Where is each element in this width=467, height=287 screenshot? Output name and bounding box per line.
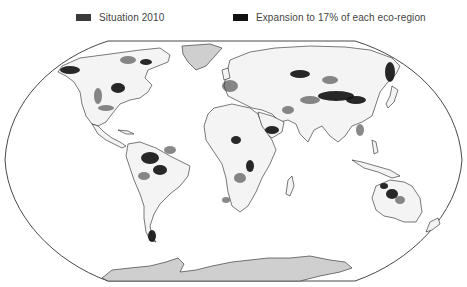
expansion-area [141,152,159,164]
expansion-area [148,230,156,242]
protected-area-2010 [234,173,246,183]
protected-area-2010 [98,105,114,111]
protected-area-2010 [222,197,230,203]
expansion-area [246,160,254,172]
world-map [0,0,467,287]
expansion-area [385,62,395,82]
expansion-area [60,66,80,74]
expansion-area [111,83,125,93]
protected-area-2010 [322,76,338,84]
protected-area-2010 [138,172,150,180]
protected-area-2010 [94,88,102,104]
protected-area-2010 [356,124,364,136]
protected-area-2010 [282,106,294,114]
expansion-area [265,126,279,134]
protected-area-2010 [164,146,176,154]
protected-area-2010 [120,56,136,64]
protected-area-2010 [222,80,238,92]
protected-area-2010 [300,96,320,104]
expansion-area [153,165,167,175]
expansion-area [140,59,152,65]
expansion-area [290,70,310,78]
expansion-area [346,96,366,104]
expansion-area [380,183,388,189]
protected-area-2010 [395,196,405,204]
expansion-area [231,136,241,144]
